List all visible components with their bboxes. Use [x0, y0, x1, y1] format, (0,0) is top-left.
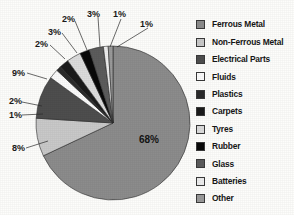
legend-color-swatch [196, 20, 205, 29]
pie-percentage-label: 3% [48, 27, 61, 37]
legend-item[interactable]: Batteries [196, 173, 292, 190]
legend-item-label: Electrical Parts [212, 55, 270, 63]
pie-chart-figure: 68%8%1%2%9%2%3%2%3%1%1% Ferrous MetalNon… [0, 0, 294, 215]
legend-item[interactable]: Fluids [196, 68, 292, 85]
legend-color-swatch [196, 142, 205, 151]
legend-color-swatch [196, 90, 205, 99]
legend-item[interactable]: Tyres [196, 120, 292, 137]
legend-color-swatch [196, 177, 205, 186]
legend-item[interactable]: Non-Ferrous Metal [196, 33, 292, 50]
pie-percentage-label: 2% [9, 96, 22, 106]
pie-percentage-label: 1% [9, 110, 22, 120]
callout-leader-line [62, 33, 77, 53]
legend-item[interactable]: Glass [196, 155, 292, 172]
legend-item[interactable]: Plastics [196, 86, 292, 103]
pie-percentage-label: 2% [62, 14, 75, 24]
legend-color-swatch [196, 107, 205, 116]
legend-color-swatch [196, 159, 205, 168]
callout-leader-line [27, 73, 47, 79]
legend-item[interactable]: Carpets [196, 103, 292, 120]
callout-leader-line [117, 28, 148, 47]
pie-percentage-label: 3% [87, 9, 100, 19]
callout-leader-line [98, 17, 100, 47]
chart-legend: Ferrous MetalNon-Ferrous MetalElectrical… [196, 16, 292, 207]
callout-leader-line [50, 45, 65, 59]
legend-item-label: Glass [212, 160, 234, 168]
pie-percentage-label: 1% [113, 9, 126, 19]
pie-percentage-label: 2% [35, 39, 48, 49]
pie-percentage-label: 8% [12, 143, 25, 153]
callout-leader-line [75, 21, 87, 50]
pie-percentage-label: 68% [139, 134, 159, 145]
legend-item-label: Other [212, 194, 234, 202]
legend-item[interactable]: Rubber [196, 138, 292, 155]
pie-percentage-label: 1% [140, 19, 153, 29]
legend-color-swatch [196, 72, 205, 81]
legend-item-label: Plastics [212, 90, 242, 98]
legend-item[interactable]: Other [196, 190, 292, 207]
legend-item-label: Ferrous Metal [212, 20, 265, 28]
legend-item-label: Tyres [212, 125, 233, 133]
pie-slices-group [36, 46, 190, 200]
legend-color-swatch [196, 55, 205, 64]
legend-item-label: Carpets [212, 107, 242, 115]
pie-percentage-label: 9% [12, 68, 25, 78]
callout-leader-line [110, 19, 121, 47]
legend-color-swatch [196, 38, 205, 47]
legend-item-label: Fluids [212, 73, 236, 81]
legend-item[interactable]: Electrical Parts [196, 51, 292, 68]
legend-item-label: Rubber [212, 142, 240, 150]
legend-color-swatch [196, 194, 205, 203]
legend-item-label: Batteries [212, 177, 247, 185]
legend-item-label: Non-Ferrous Metal [212, 38, 283, 46]
legend-item[interactable]: Ferrous Metal [196, 16, 292, 33]
legend-color-swatch [196, 125, 205, 134]
